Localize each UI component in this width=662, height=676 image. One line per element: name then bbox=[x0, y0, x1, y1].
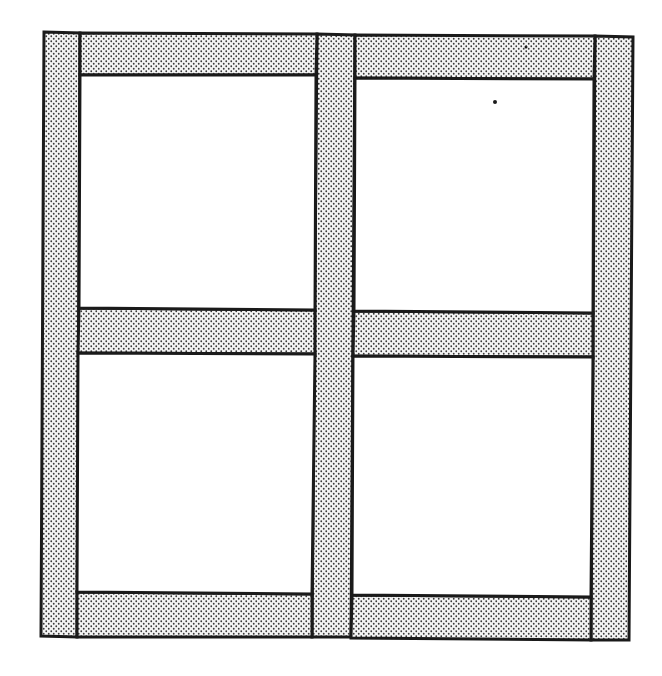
top-rail-right bbox=[355, 35, 595, 79]
left-stile bbox=[41, 32, 80, 637]
speck-top-right-panel bbox=[493, 100, 497, 104]
speck-top-right-rail bbox=[525, 46, 528, 49]
top-rail-left bbox=[80, 33, 317, 75]
right-stile bbox=[591, 36, 633, 640]
panel-bottom-right bbox=[352, 356, 593, 597]
panel-bottom-left bbox=[77, 353, 315, 594]
frame-diagram bbox=[0, 0, 662, 676]
mid-rail-left bbox=[78, 308, 315, 354]
bottom-rail-right bbox=[351, 595, 591, 640]
panel-top-left bbox=[79, 75, 316, 310]
bottom-rail-left bbox=[77, 592, 312, 637]
panel-top-right bbox=[354, 78, 594, 313]
mid-rail-right bbox=[353, 311, 593, 357]
center-mullion bbox=[312, 34, 355, 637]
